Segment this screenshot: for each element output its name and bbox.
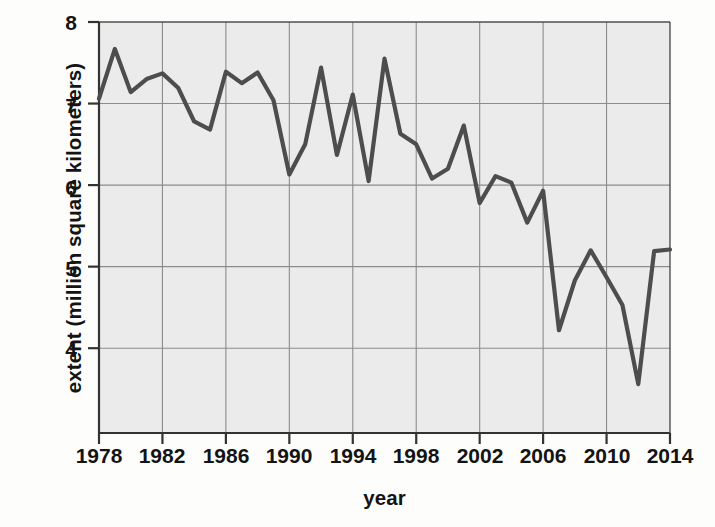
y-axis-title: extent (million square kilometers) [62,18,86,438]
xtick-label-1994: 1994 [318,444,388,468]
xtick-label-2010: 2010 [572,444,642,468]
xtick-label-1998: 1998 [381,444,451,468]
x-axis-title: year [99,486,670,510]
xtick-label-1990: 1990 [254,444,324,468]
xtick-label-1978: 1978 [64,444,134,468]
xtick-label-2002: 2002 [445,444,515,468]
plot-area-background [99,22,670,433]
chart-figure: 8 7 6 5 4 1978 1982 1986 1990 1994 1998 … [0,0,715,527]
xtick-label-2006: 2006 [508,444,578,468]
xtick-label-1982: 1982 [127,444,197,468]
xtick-label-2014: 2014 [635,444,705,468]
xtick-label-1986: 1986 [191,444,261,468]
